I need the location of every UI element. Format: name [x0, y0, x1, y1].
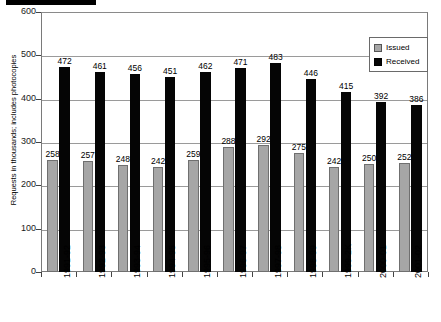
x-axis-category-label: 1997-98: [274, 245, 283, 278]
legend-item-issued: Issued: [374, 41, 424, 55]
bar-group: 242415: [322, 12, 357, 272]
x-axis-category-label: 1993-94: [133, 245, 142, 278]
bar-group: 248456: [111, 12, 146, 272]
x-axis-tick: [76, 272, 77, 277]
x-axis-category-label: 1998-99: [309, 245, 318, 278]
legend-label-received: Received: [386, 58, 419, 66]
x-axis-category-label: 1994-95: [168, 245, 177, 278]
bar-issued: [223, 147, 234, 272]
x-axis-tick: [358, 272, 359, 277]
x-axis-tick: [287, 272, 288, 277]
bar-issued: [83, 161, 94, 272]
bar-received: [130, 74, 141, 272]
bar-issued: [118, 165, 129, 272]
bar-value-label: 461: [89, 62, 111, 71]
x-axis-category-label: 2001-02: [414, 245, 423, 278]
legend-item-received: Received: [374, 55, 424, 69]
y-axis-tick-label: 600: [6, 7, 36, 16]
bar-value-label: 415: [335, 82, 357, 91]
bar-value-label: 462: [195, 62, 217, 71]
bar-received: [235, 68, 246, 272]
bar-issued: [329, 167, 340, 272]
bar-received: [95, 72, 106, 272]
issued-swatch-icon: [374, 44, 382, 52]
x-axis-tick: [428, 272, 429, 277]
x-axis-category-label: 1991-92: [63, 245, 72, 278]
x-axis-tick: [182, 272, 183, 277]
x-axis-tick: [41, 272, 42, 277]
bar-received: [165, 77, 176, 272]
bar-group: 242451: [147, 12, 182, 272]
x-axis-category-label: 1992-93: [98, 245, 107, 278]
x-axis-tick: [147, 272, 148, 277]
bar-group: 275446: [287, 12, 322, 272]
bar-received: [59, 67, 70, 272]
x-axis-category-label: 2000-01: [379, 245, 388, 278]
bar-issued: [364, 164, 375, 272]
bar-chart: 0100200300400500600 Requests in thousand…: [0, 0, 441, 322]
x-axis-category-label: 1999-2K: [344, 244, 353, 278]
bar-group: 257461: [76, 12, 111, 272]
y-axis-title: Requests in thousands; includes photocop…: [10, 30, 18, 230]
bar-value-label: 483: [265, 53, 287, 62]
legend-label-issued: Issued: [386, 44, 410, 52]
bar-group: 288471: [217, 12, 252, 272]
y-axis-tick-label: 0: [6, 267, 36, 276]
bar-group: 259462: [182, 12, 217, 272]
bar-issued: [399, 163, 410, 272]
bar-value-label: 472: [54, 57, 76, 66]
bar-value-label: 386: [406, 95, 428, 104]
bar-issued: [294, 153, 305, 272]
bar-value-label: 392: [370, 92, 392, 101]
bar-issued: [153, 167, 164, 272]
bar-received: [200, 72, 211, 272]
legend: Issued Received: [369, 37, 428, 72]
x-axis-category-label: 1995-96: [203, 245, 212, 278]
bar-value-label: 456: [124, 64, 146, 73]
bar-issued: [47, 160, 58, 272]
bar-issued: [188, 160, 199, 272]
x-axis-tick: [322, 272, 323, 277]
bar-value-label: 451: [159, 67, 181, 76]
bar-value-label: 446: [300, 69, 322, 78]
received-swatch-icon: [374, 58, 382, 66]
bar-group: 258472: [41, 12, 76, 272]
y-axis-labels: 0100200300400500600: [0, 0, 36, 322]
x-axis-tick: [111, 272, 112, 277]
x-axis-tick: [393, 272, 394, 277]
bar-value-label: 471: [230, 58, 252, 67]
bar-group: 292483: [252, 12, 287, 272]
bar-received: [306, 79, 317, 272]
bar-received: [270, 63, 281, 272]
bar-issued: [258, 145, 269, 272]
x-axis-category-label: 1996-97: [239, 245, 248, 278]
x-axis-tick: [252, 272, 253, 277]
x-axis-tick: [217, 272, 218, 277]
